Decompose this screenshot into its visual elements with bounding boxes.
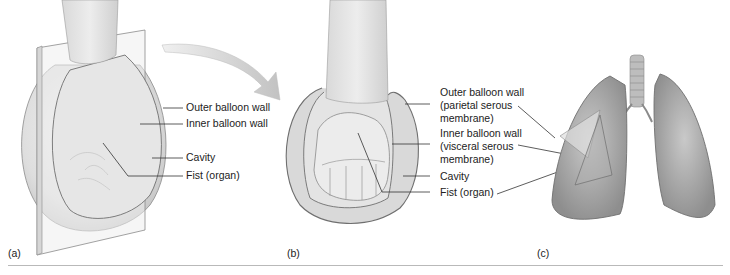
callout-cavity-a: Cavity	[186, 151, 215, 164]
figure-artwork	[0, 0, 730, 275]
curved-arrow-icon	[162, 44, 280, 100]
callout-outer-line3: membrane)	[440, 112, 524, 125]
panel-label-b: (b)	[287, 247, 300, 259]
callout-outer-line1: Outer balloon wall	[440, 86, 524, 99]
panel-c-lungs-illustration	[552, 55, 715, 219]
callout-fist-organ-b: Fist (organ)	[440, 186, 494, 199]
callout-cavity-b: Cavity	[440, 170, 469, 183]
panel-b-fist-illustration	[286, 0, 588, 223]
bottom-divider	[8, 265, 723, 266]
callout-outer-balloon-wall-a: Outer balloon wall	[186, 101, 270, 114]
callout-inner-line1: Inner balloon wall	[440, 127, 522, 140]
serous-membrane-figure: Outer balloon wall Inner balloon wall Ca…	[0, 0, 730, 275]
callout-outer-balloon-wall-b: Outer balloon wall (parietal serous memb…	[440, 86, 524, 125]
callout-inner-line2: (visceral serous	[440, 140, 522, 153]
callout-inner-line3: membrane)	[440, 153, 522, 166]
callout-outer-line2: (parietal serous	[440, 99, 524, 112]
panel-label-a: (a)	[8, 247, 21, 259]
panel-label-c: (c)	[537, 247, 549, 259]
callout-inner-balloon-wall-a: Inner balloon wall	[186, 117, 268, 130]
panel-a-balloon-illustration	[22, 0, 183, 255]
callout-fist-organ-a: Fist (organ)	[186, 169, 240, 182]
callout-inner-balloon-wall-b: Inner balloon wall (visceral serous memb…	[440, 127, 522, 166]
